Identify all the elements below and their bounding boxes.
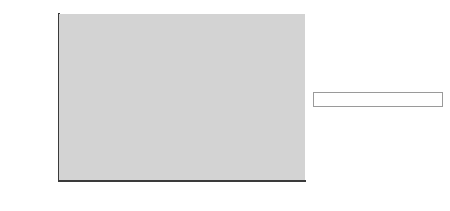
chart-legend	[313, 92, 443, 107]
y-axis	[0, 0, 55, 211]
stacked-bar-chart	[0, 0, 450, 211]
plot-area	[59, 14, 305, 180]
x-axis-line	[58, 180, 306, 182]
